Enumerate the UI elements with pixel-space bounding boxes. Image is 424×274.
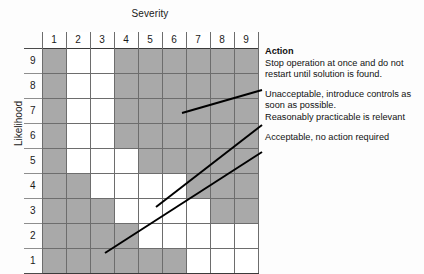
- severity-header-7: 7: [186, 32, 210, 48]
- likelihood-header-6: 6: [24, 123, 42, 148]
- risk-cell-s4-l2[interactable]: [114, 223, 138, 248]
- risk-cell-s6-l9[interactable]: [162, 48, 186, 73]
- risk-cell-s5-l4[interactable]: [138, 173, 162, 198]
- risk-cell-s5-l6[interactable]: [138, 123, 162, 148]
- risk-cell-s1-l7[interactable]: [42, 98, 66, 123]
- risk-cell-s8-l5[interactable]: [210, 148, 234, 173]
- severity-header-row: 1 2 3 4 5 6 7 8 9: [24, 32, 258, 48]
- legend-action-line-2: restart until solution is found.: [265, 69, 423, 81]
- risk-cell-s4-l6[interactable]: [114, 123, 138, 148]
- legend-block-acceptable: Acceptable, no action required: [265, 132, 423, 144]
- risk-cell-s8-l6[interactable]: [210, 123, 234, 148]
- risk-cell-s7-l7[interactable]: [186, 98, 210, 123]
- severity-header-4: 4: [114, 32, 138, 48]
- risk-cell-s2-l2[interactable]: [66, 223, 90, 248]
- risk-cell-s1-l9[interactable]: [42, 48, 66, 73]
- risk-cell-s8-l3[interactable]: [210, 198, 234, 223]
- risk-cell-s9-l1[interactable]: [234, 248, 258, 273]
- risk-cell-s9-l3[interactable]: [234, 198, 258, 223]
- risk-cell-s5-l7[interactable]: [138, 98, 162, 123]
- risk-cell-s7-l3[interactable]: [186, 198, 210, 223]
- risk-cell-s5-l5[interactable]: [138, 148, 162, 173]
- risk-cell-s3-l3[interactable]: [90, 198, 114, 223]
- risk-cell-s8-l4[interactable]: [210, 173, 234, 198]
- risk-cell-s9-l7[interactable]: [234, 98, 258, 123]
- risk-cell-s7-l9[interactable]: [186, 48, 210, 73]
- risk-cell-s1-l1[interactable]: [42, 248, 66, 273]
- risk-matrix-grid-container: 1 2 3 4 5 6 7 8 9 987654321: [24, 32, 259, 274]
- risk-cell-s8-l7[interactable]: [210, 98, 234, 123]
- risk-cell-s7-l4[interactable]: [186, 173, 210, 198]
- risk-cell-s1-l6[interactable]: [42, 123, 66, 148]
- risk-cell-s4-l1[interactable]: [114, 248, 138, 273]
- risk-cell-s5-l8[interactable]: [138, 73, 162, 98]
- risk-cell-s1-l4[interactable]: [42, 173, 66, 198]
- legend-panel: Action Stop operation at once and do not…: [265, 46, 423, 151]
- risk-cell-s2-l4[interactable]: [66, 173, 90, 198]
- risk-cell-s2-l8[interactable]: [66, 73, 90, 98]
- y-axis-title: Likelihood: [13, 84, 24, 164]
- risk-cell-s4-l3[interactable]: [114, 198, 138, 223]
- risk-cell-s7-l2[interactable]: [186, 223, 210, 248]
- risk-cell-s1-l5[interactable]: [42, 148, 66, 173]
- risk-cell-s3-l6[interactable]: [90, 123, 114, 148]
- risk-cell-s6-l2[interactable]: [162, 223, 186, 248]
- risk-cell-s6-l5[interactable]: [162, 148, 186, 173]
- risk-cell-s9-l2[interactable]: [234, 223, 258, 248]
- risk-cell-s6-l7[interactable]: [162, 98, 186, 123]
- risk-cell-s1-l3[interactable]: [42, 198, 66, 223]
- risk-cell-s4-l8[interactable]: [114, 73, 138, 98]
- risk-cell-s2-l5[interactable]: [66, 148, 90, 173]
- risk-cell-s2-l3[interactable]: [66, 198, 90, 223]
- risk-cell-s3-l4[interactable]: [90, 173, 114, 198]
- legend-action-heading: Action: [265, 46, 423, 58]
- risk-cell-s8-l9[interactable]: [210, 48, 234, 73]
- risk-cell-s3-l7[interactable]: [90, 98, 114, 123]
- risk-cell-s3-l9[interactable]: [90, 48, 114, 73]
- severity-header-5: 5: [138, 32, 162, 48]
- risk-cell-s9-l9[interactable]: [234, 48, 258, 73]
- likelihood-header-4: 4: [24, 173, 42, 198]
- risk-cell-s3-l1[interactable]: [90, 248, 114, 273]
- risk-cell-s1-l2[interactable]: [42, 223, 66, 248]
- risk-cell-s9-l4[interactable]: [234, 173, 258, 198]
- risk-cell-s8-l2[interactable]: [210, 223, 234, 248]
- risk-cell-s6-l6[interactable]: [162, 123, 186, 148]
- risk-cell-s6-l8[interactable]: [162, 73, 186, 98]
- risk-cell-s7-l5[interactable]: [186, 148, 210, 173]
- risk-cell-s4-l5[interactable]: [114, 148, 138, 173]
- risk-cell-s9-l5[interactable]: [234, 148, 258, 173]
- risk-cell-s5-l9[interactable]: [138, 48, 162, 73]
- risk-cell-s6-l3[interactable]: [162, 198, 186, 223]
- severity-header-2: 2: [66, 32, 90, 48]
- risk-cell-s9-l8[interactable]: [234, 73, 258, 98]
- risk-cell-s2-l6[interactable]: [66, 123, 90, 148]
- risk-cell-s5-l3[interactable]: [138, 198, 162, 223]
- risk-cell-s6-l4[interactable]: [162, 173, 186, 198]
- risk-cell-s8-l8[interactable]: [210, 73, 234, 98]
- risk-cell-s7-l8[interactable]: [186, 73, 210, 98]
- risk-cell-s2-l1[interactable]: [66, 248, 90, 273]
- risk-cell-s5-l2[interactable]: [138, 223, 162, 248]
- risk-cell-s7-l6[interactable]: [186, 123, 210, 148]
- risk-cell-s2-l7[interactable]: [66, 98, 90, 123]
- risk-cell-s5-l1[interactable]: [138, 248, 162, 273]
- risk-cell-s7-l1[interactable]: [186, 248, 210, 273]
- legend-block-action: Action Stop operation at once and do not…: [265, 46, 423, 81]
- risk-cell-s3-l5[interactable]: [90, 148, 114, 173]
- risk-cell-s9-l6[interactable]: [234, 123, 258, 148]
- risk-cell-s3-l2[interactable]: [90, 223, 114, 248]
- risk-cell-s3-l8[interactable]: [90, 73, 114, 98]
- risk-cell-s2-l9[interactable]: [66, 48, 90, 73]
- legend-acceptable-line-1: Acceptable, no action required: [265, 132, 423, 144]
- risk-cell-s4-l4[interactable]: [114, 173, 138, 198]
- risk-matrix-table: 1 2 3 4 5 6 7 8 9 987654321: [24, 32, 259, 274]
- risk-cell-s4-l7[interactable]: [114, 98, 138, 123]
- risk-cell-s8-l1[interactable]: [210, 248, 234, 273]
- risk-cell-s1-l8[interactable]: [42, 73, 66, 98]
- risk-cell-s4-l9[interactable]: [114, 48, 138, 73]
- legend-block-unacceptable: Unacceptable, introduce controls as soon…: [265, 89, 423, 124]
- risk-matrix-row-likelihood-3: 3: [24, 198, 258, 223]
- risk-cell-s6-l1[interactable]: [162, 248, 186, 273]
